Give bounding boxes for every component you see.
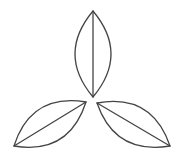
trefoil-diagram <box>0 0 181 168</box>
bottom-left-leaf <box>14 101 86 148</box>
bottom-right-leaf <box>97 101 170 147</box>
top-leaf <box>75 11 111 97</box>
trefoil-leaves-graphic <box>0 0 181 168</box>
